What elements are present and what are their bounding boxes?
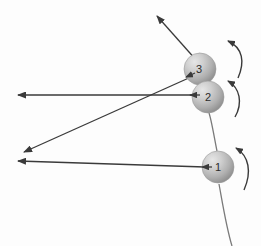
sphere-3: 3: [184, 53, 216, 85]
sphere-3-label: 3: [196, 63, 202, 75]
spin-arrow-lower: [236, 148, 248, 190]
velocity-arrow-3: [24, 77, 191, 152]
spin-arrow-middle: [228, 81, 239, 117]
diagram-svg: 3 2 1: [0, 0, 261, 246]
spin-arrow-upper: [228, 41, 242, 78]
velocity-arrow-1: [18, 161, 205, 167]
velocity-arrow-4: [157, 16, 197, 61]
sphere-2: 2: [192, 81, 224, 113]
figure-canvas: 3 2 1: [0, 0, 261, 246]
sphere-1-label: 1: [215, 161, 221, 173]
sphere-2-label: 2: [205, 91, 211, 103]
